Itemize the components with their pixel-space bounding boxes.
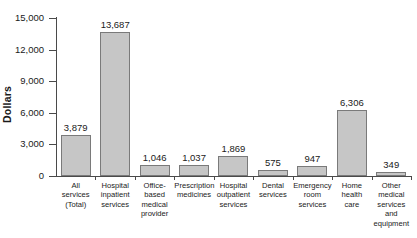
bar-value-label: 13,687 (101, 19, 130, 30)
bar[interactable] (179, 165, 209, 176)
y-tick-label: 12,000 (15, 43, 44, 57)
y-tick-mark (49, 144, 56, 145)
x-axis-label: Hospital outpatient services (214, 181, 253, 209)
bar[interactable] (297, 166, 327, 176)
y-tick-mark (49, 81, 56, 82)
x-tick-mark (135, 176, 136, 180)
y-tick-label: 3,000 (20, 137, 44, 151)
bar[interactable] (337, 110, 367, 176)
y-tick-label: 6,000 (20, 106, 44, 120)
x-tick-mark (411, 176, 412, 180)
x-tick-mark (253, 176, 254, 180)
bar-slot[interactable]: 1,037 (174, 18, 213, 176)
y-tick-label: 9,000 (20, 74, 44, 88)
bar-slot[interactable]: 13,687 (95, 18, 134, 176)
bar-value-label: 947 (304, 153, 320, 164)
bar-slot[interactable]: 947 (293, 18, 332, 176)
x-axis-label: Hospital inpatient services (95, 181, 134, 209)
bar-value-label: 1,869 (222, 143, 246, 154)
bar[interactable] (140, 165, 170, 176)
x-axis-label: All services (Total) (56, 181, 95, 209)
y-tick-mark (49, 113, 56, 114)
bar-value-label: 6,306 (340, 97, 364, 108)
bar-slot[interactable]: 575 (253, 18, 292, 176)
bar[interactable] (376, 172, 406, 176)
bar-slot[interactable]: 1,869 (214, 18, 253, 176)
x-axis-label: Dental services (253, 181, 292, 200)
x-axis-label: Other medical services and equipment (372, 181, 411, 228)
x-axis-label: Office- based medical provider (135, 181, 174, 219)
y-axis-title: Dollars (0, 60, 14, 150)
x-tick-mark (174, 176, 175, 180)
x-tick-mark (372, 176, 373, 180)
x-axis-label: Emergency room services (293, 181, 332, 209)
bar-slot[interactable]: 1,046 (135, 18, 174, 176)
bar-slot[interactable]: 6,306 (332, 18, 371, 176)
x-axis-label: Home health care (332, 181, 371, 209)
bar-slot[interactable]: 3,879 (56, 18, 95, 176)
y-tick-label: 0 (39, 169, 44, 183)
x-tick-mark (95, 176, 96, 180)
x-tick-mark (293, 176, 294, 180)
x-tick-mark (332, 176, 333, 180)
bar[interactable] (61, 135, 91, 176)
bar[interactable] (218, 156, 248, 176)
bar-value-label: 349 (383, 159, 399, 170)
bar-value-label: 1,037 (182, 152, 206, 163)
bar-chart: Dollars 15,00012,0009,0006,0003,0000 3,8… (0, 0, 417, 238)
y-tick-label: 15,000 (15, 11, 44, 25)
x-tick-mark (214, 176, 215, 180)
bar-value-label: 575 (265, 157, 281, 168)
y-tick-mark (49, 50, 56, 51)
x-axis-line (56, 176, 411, 177)
bar[interactable] (258, 170, 288, 176)
y-tick-mark (49, 176, 56, 177)
y-tick-mark (49, 18, 56, 19)
plot-area: 3,87913,6871,0461,0371,8695759476,306349 (56, 18, 411, 176)
bar-slot[interactable]: 349 (372, 18, 411, 176)
x-axis-label: Prescription medicines (174, 181, 213, 200)
bar-value-label: 3,879 (64, 122, 88, 133)
bar-value-label: 1,046 (143, 152, 167, 163)
bar[interactable] (100, 32, 130, 176)
